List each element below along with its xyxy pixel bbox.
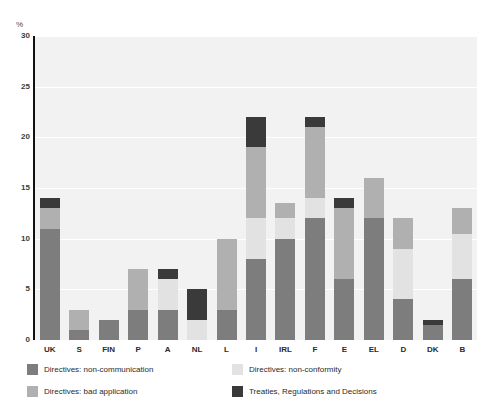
bar-segment	[334, 208, 354, 279]
bar-column[interactable]	[128, 36, 148, 340]
bar-segment	[40, 208, 60, 228]
bar-column[interactable]	[217, 36, 237, 340]
y-axis-unit-label: %	[16, 20, 23, 29]
chart-figure: % 051015202530 UKSFINPANLLIIRLFEELDDKB D…	[0, 0, 486, 414]
bar-column[interactable]	[99, 36, 119, 340]
bar-column[interactable]	[69, 36, 89, 340]
bar-segment	[246, 218, 266, 259]
bar-column[interactable]	[40, 36, 60, 340]
bar-segment	[158, 279, 178, 309]
bar-segment	[158, 310, 178, 340]
legend-swatch-icon	[232, 386, 243, 397]
bar-segment	[158, 269, 178, 279]
bar-segment	[334, 198, 354, 208]
y-axis-tick-label: 5	[8, 284, 30, 293]
bar-segment	[393, 249, 413, 300]
bar-segment	[364, 218, 384, 340]
bar-segment	[275, 203, 295, 218]
bar-segment	[246, 117, 266, 147]
bar-segment	[187, 320, 207, 340]
bar-segment	[305, 198, 325, 218]
legend-label: Directives: non-conformity	[249, 365, 341, 374]
bar-segment	[128, 310, 148, 340]
bar-column[interactable]	[423, 36, 443, 340]
bar-column[interactable]	[187, 36, 207, 340]
bar-column[interactable]	[364, 36, 384, 340]
bar-segment	[452, 279, 472, 340]
bar-segment	[393, 299, 413, 340]
legend-label: Treaties, Regulations and Decisions	[249, 387, 377, 396]
legend-label: Directives: non-communication	[44, 365, 153, 374]
legend-swatch-icon	[232, 364, 243, 375]
y-axis-tick-label: 25	[8, 82, 30, 91]
bar-segment	[246, 147, 266, 218]
bar-column[interactable]	[305, 36, 325, 340]
legend-swatch-icon	[27, 364, 38, 375]
bar-column[interactable]	[393, 36, 413, 340]
bar-segment	[187, 289, 207, 319]
bar-segment	[305, 127, 325, 198]
bar-column[interactable]	[452, 36, 472, 340]
bar-segment	[364, 178, 384, 219]
bar-segment	[40, 229, 60, 340]
legend-item[interactable]: Treaties, Regulations and Decisions	[232, 386, 377, 397]
bar-segment	[217, 239, 237, 310]
bar-column[interactable]	[275, 36, 295, 340]
y-axis-tick-label: 30	[8, 31, 30, 40]
legend-item[interactable]: Directives: non-communication	[27, 364, 153, 375]
y-axis-tick-label: 0	[8, 335, 30, 344]
bar-segment	[305, 117, 325, 127]
bar-segment	[217, 310, 237, 340]
legend-item[interactable]: Directives: bad application	[27, 386, 137, 397]
bar-segment	[275, 239, 295, 340]
bar-segment	[334, 279, 354, 340]
bars-layer	[35, 36, 477, 340]
bar-segment	[452, 208, 472, 233]
bar-segment	[393, 218, 413, 248]
legend-label: Directives: bad application	[44, 387, 137, 396]
x-axis-label: B	[442, 345, 482, 354]
legend-swatch-icon	[27, 386, 38, 397]
y-axis-tick-label: 15	[8, 183, 30, 192]
bar-segment	[305, 218, 325, 340]
bar-segment	[423, 320, 443, 325]
bar-segment	[423, 325, 443, 340]
bar-segment	[69, 310, 89, 330]
bar-segment	[69, 330, 89, 340]
y-axis-tick-label: 10	[8, 234, 30, 243]
bar-column[interactable]	[334, 36, 354, 340]
bar-segment	[128, 269, 148, 310]
legend-item[interactable]: Directives: non-conformity	[232, 364, 341, 375]
bar-column[interactable]	[158, 36, 178, 340]
bar-column[interactable]	[246, 36, 266, 340]
y-axis-tick-label: 20	[8, 132, 30, 141]
bar-segment	[40, 198, 60, 208]
bar-segment	[452, 234, 472, 280]
bar-segment	[246, 259, 266, 340]
bar-segment	[99, 320, 119, 340]
bar-segment	[275, 218, 295, 238]
